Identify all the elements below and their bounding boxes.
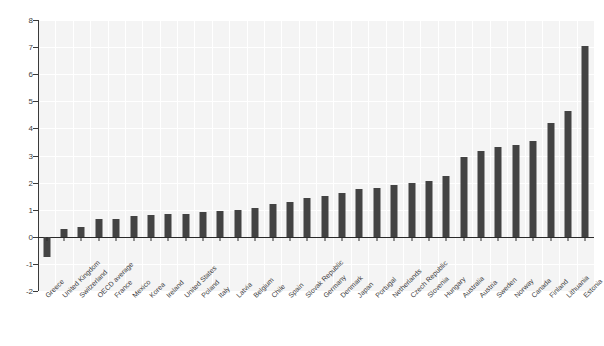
bar-slot xyxy=(490,20,507,291)
bar[interactable] xyxy=(425,181,432,237)
bar[interactable] xyxy=(234,210,241,237)
x-axis-tick xyxy=(463,237,464,241)
bar[interactable] xyxy=(495,147,502,236)
y-axis-tick-label: 0 xyxy=(13,232,33,241)
bar[interactable] xyxy=(61,229,68,237)
bar-slot xyxy=(229,20,246,291)
bar[interactable] xyxy=(147,215,154,237)
bar-slot xyxy=(472,20,489,291)
bar-slot xyxy=(351,20,368,291)
bar-slot xyxy=(73,20,90,291)
bar-slot xyxy=(316,20,333,291)
bar-slot xyxy=(142,20,159,291)
x-axis-tick xyxy=(98,237,99,241)
y-axis-tick-label: -2 xyxy=(13,287,33,296)
y-axis-tick-label: 4 xyxy=(13,124,33,133)
bar[interactable] xyxy=(512,145,519,237)
bar-slot xyxy=(108,20,125,291)
y-axis-tick xyxy=(33,291,38,292)
y-axis-tick-label: 7 xyxy=(13,43,33,52)
bar[interactable] xyxy=(165,214,172,237)
y-axis-tick-label: 3 xyxy=(13,151,33,160)
x-axis-tick xyxy=(46,237,47,241)
x-axis-tick xyxy=(81,237,82,241)
bar-slot xyxy=(368,20,385,291)
y-axis-tick-label: 5 xyxy=(13,97,33,106)
bar-slot xyxy=(386,20,403,291)
bar-slot xyxy=(525,20,542,291)
bar[interactable] xyxy=(443,176,450,237)
bar[interactable] xyxy=(252,208,259,236)
y-axis-tick-label: -1 xyxy=(13,259,33,268)
bar-slot xyxy=(299,20,316,291)
x-axis-tick xyxy=(515,237,516,241)
bar-slot xyxy=(212,20,229,291)
bar[interactable] xyxy=(95,219,102,237)
bar[interactable] xyxy=(547,123,554,237)
bar[interactable] xyxy=(408,183,415,237)
x-axis-tick xyxy=(237,237,238,241)
bar[interactable] xyxy=(460,157,467,237)
bars-layer xyxy=(38,20,594,291)
bar-slot xyxy=(55,20,72,291)
bar-slot xyxy=(38,20,55,291)
x-axis-tick xyxy=(64,237,65,241)
bar[interactable] xyxy=(217,211,224,237)
bar-slot xyxy=(177,20,194,291)
bar[interactable] xyxy=(321,196,328,237)
y-axis-tick-label: 1 xyxy=(13,205,33,214)
x-axis-tick xyxy=(168,237,169,241)
x-axis-tick xyxy=(150,237,151,241)
bar-slot xyxy=(577,20,594,291)
x-axis-tick xyxy=(255,237,256,241)
bar-slot xyxy=(125,20,142,291)
x-axis-tick xyxy=(289,237,290,241)
x-axis-tick xyxy=(411,237,412,241)
x-axis-tick xyxy=(446,237,447,241)
bar[interactable] xyxy=(391,185,398,236)
x-axis-tick xyxy=(116,237,117,241)
x-axis-tick xyxy=(203,237,204,241)
x-axis-tick xyxy=(498,237,499,241)
bar[interactable] xyxy=(478,151,485,236)
bar[interactable] xyxy=(582,46,589,237)
x-axis-tick xyxy=(185,237,186,241)
bar-slot xyxy=(160,20,177,291)
x-axis-tick xyxy=(567,237,568,241)
bar[interactable] xyxy=(130,216,137,236)
bar-slot xyxy=(507,20,524,291)
bar[interactable] xyxy=(78,227,85,236)
x-axis-tick xyxy=(272,237,273,241)
y-axis-tick-label: 6 xyxy=(13,70,33,79)
bar[interactable] xyxy=(564,111,571,237)
bar[interactable] xyxy=(304,198,311,237)
bar[interactable] xyxy=(269,204,276,237)
x-axis-tick xyxy=(428,237,429,241)
x-axis-tick xyxy=(394,237,395,241)
x-axis-tick xyxy=(585,237,586,241)
bar-slot xyxy=(333,20,350,291)
bar-slot xyxy=(438,20,455,291)
x-axis-tick xyxy=(533,237,534,241)
x-axis-labels: GreeceUnited KingdomSwitzerlandOECD aver… xyxy=(38,294,594,346)
bar-slot xyxy=(542,20,559,291)
bar-slot xyxy=(403,20,420,291)
bar[interactable] xyxy=(356,189,363,236)
bar[interactable] xyxy=(200,212,207,236)
bar-slot xyxy=(247,20,264,291)
bar[interactable] xyxy=(113,219,120,237)
gridline-vertical xyxy=(594,20,595,291)
bar[interactable] xyxy=(339,193,346,236)
bar-slot xyxy=(455,20,472,291)
x-axis-tick xyxy=(550,237,551,241)
bar[interactable] xyxy=(373,188,380,237)
x-axis-tick xyxy=(376,237,377,241)
bar[interactable] xyxy=(530,141,537,237)
x-axis-tick xyxy=(342,237,343,241)
bar[interactable] xyxy=(182,214,189,237)
bar-slot xyxy=(281,20,298,291)
x-axis-tick xyxy=(133,237,134,241)
bar-slot xyxy=(264,20,281,291)
bar[interactable] xyxy=(286,202,293,237)
